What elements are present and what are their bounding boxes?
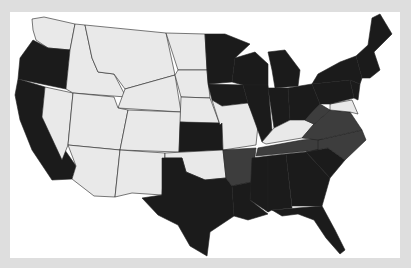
map-frame bbox=[0, 0, 411, 268]
state-new-england bbox=[356, 14, 392, 78]
state-arizona bbox=[68, 145, 120, 197]
state-new-york bbox=[312, 56, 362, 84]
us-choropleth-map bbox=[0, 0, 411, 268]
state-utah bbox=[68, 93, 128, 150]
state-florida bbox=[272, 206, 345, 254]
state-south-dakota bbox=[175, 70, 210, 98]
state-michigan bbox=[268, 50, 300, 88]
state-kansas bbox=[179, 122, 223, 152]
state-colorado bbox=[120, 110, 181, 152]
state-wisconsin bbox=[232, 52, 268, 85]
state-new-mexico bbox=[115, 150, 165, 197]
